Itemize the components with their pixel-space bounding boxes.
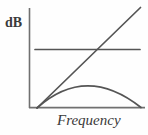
- series-bandpass-hump-curve: [37, 86, 141, 108]
- series-rising-slope-line: [37, 8, 141, 109]
- y-axis-label: dB: [5, 16, 22, 30]
- chart-figure: dB Frequency: [0, 0, 148, 135]
- x-axis-label: Frequency: [57, 113, 121, 128]
